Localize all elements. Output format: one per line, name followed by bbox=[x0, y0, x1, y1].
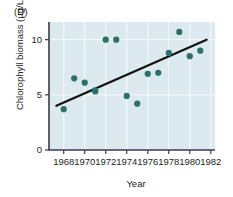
data-point bbox=[124, 93, 130, 99]
data-point bbox=[145, 71, 151, 77]
scatter-plot: 0510 19681970197219741976197819801982 bbox=[0, 0, 233, 197]
x-tick-label: 1980 bbox=[179, 156, 200, 167]
x-tick-label: 1976 bbox=[137, 156, 158, 167]
y-tick-label: 10 bbox=[31, 34, 42, 45]
data-point bbox=[113, 37, 119, 43]
y-tick-label: 5 bbox=[37, 89, 42, 100]
data-point bbox=[92, 88, 98, 94]
data-point bbox=[103, 37, 109, 43]
data-point bbox=[61, 106, 67, 112]
data-point bbox=[71, 75, 77, 81]
x-tick-label: 1978 bbox=[158, 156, 179, 167]
x-tick-label: 1974 bbox=[116, 156, 137, 167]
data-point bbox=[134, 101, 140, 107]
data-point bbox=[176, 29, 182, 35]
data-point bbox=[155, 70, 161, 76]
data-point bbox=[197, 48, 203, 54]
data-point bbox=[82, 80, 88, 86]
data-point bbox=[187, 53, 193, 59]
x-axis-label: Year bbox=[56, 178, 216, 189]
x-tick-labels: 19681970197219741976197819801982 bbox=[53, 156, 221, 167]
y-tick-labels: 0510 bbox=[31, 34, 42, 155]
y-tick-label: 0 bbox=[37, 144, 42, 155]
figure-panel-d: (D) Chlorophyll biomass (µg/L) 0510 1968… bbox=[0, 0, 233, 197]
x-tick-label: 1982 bbox=[200, 156, 221, 167]
x-tick-label: 1968 bbox=[53, 156, 74, 167]
data-point bbox=[166, 50, 172, 56]
x-tick-label: 1972 bbox=[95, 156, 116, 167]
x-tick-label: 1970 bbox=[74, 156, 95, 167]
